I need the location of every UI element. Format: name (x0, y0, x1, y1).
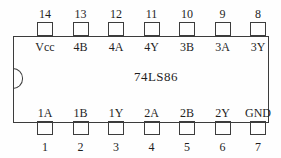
pin-lead (73, 22, 89, 36)
pin: 14 Vcc (27, 6, 63, 54)
pin-number: 1 (27, 139, 63, 155)
pin: 2B 5 (169, 105, 205, 155)
pin-number: 14 (27, 6, 63, 22)
pin-number: 12 (98, 6, 134, 22)
part-number: 74LS86 (106, 69, 206, 85)
pin-lead (144, 121, 160, 135)
pin: 10 3B (169, 6, 205, 54)
pin-label: 3A (205, 41, 241, 54)
pin-lead (215, 121, 231, 135)
chip-notch-icon (13, 68, 23, 89)
pin: 11 4Y (134, 6, 170, 54)
pin: 13 4B (63, 6, 99, 54)
pin-lead (250, 22, 266, 36)
pin-lead (179, 121, 195, 135)
pin-lead (250, 121, 266, 135)
pin-number: 2 (63, 139, 99, 155)
pin-lead (73, 121, 89, 135)
pin-lead (37, 121, 53, 135)
pin-number: 6 (205, 139, 241, 155)
pin-number: 3 (98, 139, 134, 155)
pin: 12 4A (98, 6, 134, 54)
pin-number: 13 (63, 6, 99, 22)
pin-number: 10 (169, 6, 205, 22)
pin-label: 2B (169, 105, 205, 121)
pin-lead (215, 22, 231, 36)
pin-number: 4 (134, 139, 170, 155)
pin-number: 11 (134, 6, 170, 22)
pin-number: 7 (240, 139, 276, 155)
pin: 2A 4 (134, 105, 170, 155)
pin: 8 3Y (240, 6, 276, 54)
pin-label: 1B (63, 105, 99, 121)
pin: 2Y 6 (205, 105, 241, 155)
pin-label: 3Y (240, 41, 276, 54)
pin: 1Y 3 (98, 105, 134, 155)
pin-label: 4Y (134, 41, 170, 54)
pin-label: 4B (63, 41, 99, 54)
pin: GND 7 (240, 105, 276, 155)
pin-label: GND (240, 105, 276, 121)
pin-number: 5 (169, 139, 205, 155)
pin-lead (108, 121, 124, 135)
pin-label: 2A (134, 105, 170, 121)
ic-pinout-diagram: 74LS86 14 Vcc 13 4B 12 4A 11 4Y 10 3B 9 … (0, 0, 281, 158)
pin-label: 1Y (98, 105, 134, 121)
pin: 1A 1 (27, 105, 63, 155)
pin-lead (108, 22, 124, 36)
pin-number: 8 (240, 6, 276, 22)
pin: 1B 2 (63, 105, 99, 155)
pin-lead (179, 22, 195, 36)
pin-label: 4A (98, 41, 134, 54)
pin-lead (37, 22, 53, 36)
pin-label: 3B (169, 41, 205, 54)
pin-lead (144, 22, 160, 36)
pin-label: 1A (27, 105, 63, 121)
pin-label: 2Y (205, 105, 241, 121)
pin-number: 9 (205, 6, 241, 22)
pin-label: Vcc (27, 41, 63, 54)
pin: 9 3A (205, 6, 241, 54)
